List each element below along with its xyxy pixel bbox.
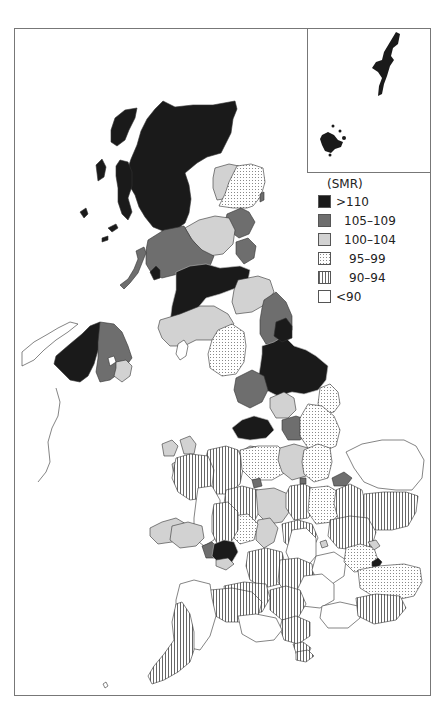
legend-swatch-light (318, 233, 331, 246)
legend-label: 100–104 (344, 233, 396, 247)
legend-item: 100–104 (318, 230, 428, 249)
legend-swatch-mid (318, 214, 331, 227)
legend-item: <90 (318, 287, 428, 306)
legend-item: 105–109 (318, 211, 428, 230)
uk-smr-map (0, 0, 447, 707)
legend-label: 90–94 (349, 271, 386, 285)
anglesey (162, 440, 178, 456)
orkney-island (320, 132, 343, 153)
isle-of-wight (296, 650, 314, 662)
inset-islands (320, 32, 400, 157)
legend: (SMR) >110 105–109 100–104 95–99 90–94 <… (318, 176, 428, 306)
south-england (148, 528, 422, 684)
legend-swatch-vertical-lines (318, 271, 331, 284)
legend-item: 90–94 (318, 268, 428, 287)
legend-title: (SMR) (327, 176, 428, 192)
legend-label: >110 (336, 195, 369, 209)
northern-ireland (22, 322, 132, 482)
legend-label: <90 (336, 290, 361, 304)
legend-label: 105–109 (344, 214, 396, 228)
legend-item: >110 (318, 192, 428, 211)
legend-label: 95–99 (349, 252, 386, 266)
legend-item: 95–99 (318, 249, 428, 268)
shetland-island (372, 32, 400, 96)
scilly-isles (103, 682, 108, 688)
legend-swatch-dots (318, 252, 331, 265)
legend-swatch-dark (318, 195, 331, 208)
legend-swatch-white (318, 290, 331, 303)
